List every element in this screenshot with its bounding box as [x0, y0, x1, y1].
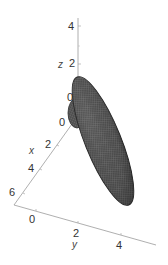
x-tick-6: 6	[9, 187, 15, 198]
z-tick-0: 0	[67, 92, 73, 103]
z-axis-label: z	[58, 60, 63, 70]
x-tick-0: 0	[59, 117, 65, 128]
x-axis	[14, 124, 72, 205]
ellipsoid-surface	[60, 70, 145, 211]
plot-canvas	[0, 0, 168, 265]
x-tick-4: 4	[28, 163, 34, 174]
y-tick-0: 0	[29, 214, 35, 225]
y-tick-4: 4	[116, 240, 122, 251]
y-axis-label: y	[72, 240, 77, 250]
y-tick-2: 2	[73, 228, 79, 239]
z-tick-4: 4	[68, 21, 74, 32]
z-tick-2: 2	[69, 58, 75, 69]
x-axis-label: x	[29, 146, 34, 156]
x-tick-2: 2	[45, 139, 51, 150]
y-axis	[14, 205, 156, 245]
